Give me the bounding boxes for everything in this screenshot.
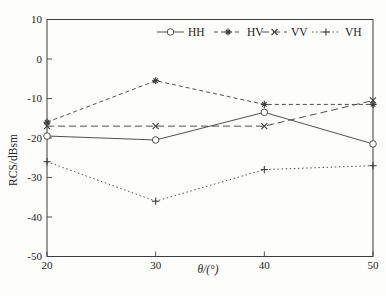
x-tick-label: 30	[150, 259, 162, 271]
chart-canvas: 100-10-20-30-40-5020304050HHHVVVVH θ/(°)…	[0, 0, 386, 296]
series-hv-marker	[263, 103, 266, 106]
series-hh-marker	[152, 137, 159, 144]
series-vh-line	[47, 162, 373, 202]
y-tick-label: -30	[27, 171, 42, 183]
rcs-line-chart: 100-10-20-30-40-5020304050HHHVVVVH θ/(°)…	[0, 0, 386, 296]
series-hv-marker	[154, 79, 157, 82]
series-hh-marker	[261, 109, 268, 116]
y-axis-label: RCS/dBsm	[7, 134, 19, 186]
plot-area: 100-10-20-30-40-5020304050HHHVVVVH	[27, 13, 379, 271]
legend-item-hh-marker-icon	[167, 29, 174, 36]
legend-item-vh-label: VH	[345, 26, 362, 38]
legend-item-hv-label: HV	[247, 26, 264, 38]
x-tick-label: 40	[259, 259, 271, 271]
y-tick-label: -40	[27, 211, 42, 223]
y-tick-label: 0	[37, 53, 43, 65]
y-tick-label: -20	[27, 132, 42, 144]
y-tick-label: 10	[31, 13, 43, 25]
series-hh-marker	[370, 141, 377, 148]
legend-item-vv-label: VV	[291, 26, 308, 38]
x-tick-label: 50	[368, 259, 380, 271]
series-hv-line	[47, 81, 373, 122]
legend-item-hh-label: HH	[188, 26, 205, 38]
series-hv-marker	[46, 121, 49, 124]
series-hh-marker	[44, 133, 51, 140]
series-hh-line	[47, 112, 373, 144]
y-tick-label: -50	[27, 250, 42, 262]
y-tick-label: -10	[27, 92, 42, 104]
x-axis-label: θ/(°)	[197, 263, 218, 276]
x-tick-label: 20	[42, 259, 54, 271]
series-hv-marker	[372, 103, 375, 106]
legend-item-hv-marker-icon	[227, 31, 230, 34]
